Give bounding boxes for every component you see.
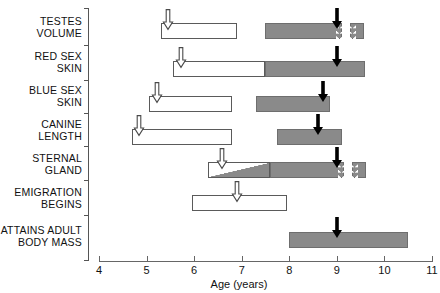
x-axis-tick [384, 256, 385, 262]
open-down-arrow-icon [151, 82, 163, 104]
x-axis-tick-label: 6 [191, 264, 197, 276]
x-axis-tick [432, 256, 433, 262]
bar-segment [289, 232, 408, 248]
solid-down-arrow-icon [331, 46, 343, 68]
x-axis-tick [289, 256, 290, 262]
open-down-arrow-icon [162, 9, 174, 31]
x-axis-spine [99, 261, 432, 262]
category-label-blue-sex-skin: BLUE SEX SKIN [29, 84, 82, 108]
x-axis-tick-label: 9 [334, 264, 340, 276]
x-axis-tick-label: 11 [426, 264, 437, 276]
category-label-red-sex-skin: RED SEX SKIN [35, 50, 83, 74]
x-axis-tick-label: 10 [378, 264, 390, 276]
y-axis-tick [84, 180, 89, 181]
open-down-arrow-icon [216, 148, 228, 170]
x-axis-tick-label: 4 [96, 264, 102, 276]
bar-segment [277, 129, 341, 145]
category-label-attains-adult-body-mass: ATTAINS ADULT BODY MASS [1, 224, 82, 248]
x-axis-tick [194, 256, 195, 262]
bar-segment [132, 129, 232, 145]
y-axis-tick [84, 260, 89, 261]
open-down-arrow-icon [133, 115, 145, 137]
y-axis-tick [84, 146, 89, 147]
solid-down-arrow-icon [331, 147, 343, 169]
developmental-timeline-chart: TESTES VOLUME RED SEX SKIN BLUE SEX SKIN… [0, 0, 440, 293]
solid-down-arrow-icon [317, 81, 329, 103]
x-axis-tick-label: 8 [286, 264, 292, 276]
x-axis-tick-label: 5 [144, 264, 150, 276]
x-axis-title: Age (years) [0, 278, 440, 290]
x-axis-tick [99, 256, 100, 262]
solid-down-arrow-icon [312, 114, 324, 136]
y-axis-tick [84, 8, 89, 9]
axis-break-zigzag-icon [351, 162, 358, 178]
y-axis-tick [84, 215, 89, 216]
x-axis-tick [337, 256, 338, 262]
category-label-emigration-begins: EMIGRATION BEGINS [14, 186, 82, 210]
y-axis-tick [84, 80, 89, 81]
y-axis-tick [84, 45, 89, 46]
category-label-testes-volume: TESTES VOLUME [36, 15, 82, 39]
x-axis-tick [147, 256, 148, 262]
y-axis-tick [84, 113, 89, 114]
open-down-arrow-icon [231, 181, 243, 203]
x-axis-tick [242, 256, 243, 262]
category-label-sternal-gland: STERNAL GLAND [32, 152, 82, 176]
solid-down-arrow-icon [331, 217, 343, 239]
x-axis-tick-label: 7 [239, 264, 245, 276]
axis-break-zigzag-icon [349, 23, 356, 39]
category-label-canine-length: CANINE LENGTH [38, 118, 82, 142]
open-down-arrow-icon [175, 47, 187, 69]
x-axis-title-text: Age (years) [211, 278, 268, 290]
bar-segment [265, 61, 365, 77]
solid-down-arrow-icon [331, 8, 343, 30]
